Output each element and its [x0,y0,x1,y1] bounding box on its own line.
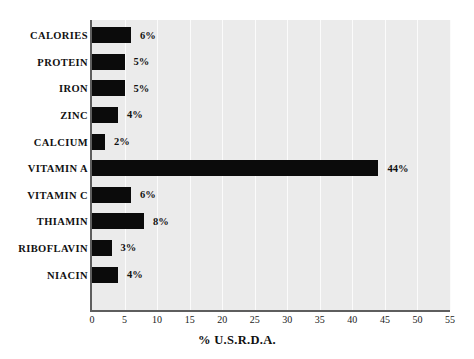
x-tick-label: 25 [250,314,260,325]
bar [92,267,118,283]
bar [92,27,131,43]
bar-row: ZINC4% [0,102,474,128]
x-tick-label: 40 [347,314,357,325]
bar-value-label: 44% [387,163,408,174]
bar-value-label: 4% [127,109,143,120]
x-tick-label: 50 [412,314,422,325]
x-tick-label: 15 [185,314,195,325]
bar-value-label: 8% [153,216,169,227]
x-tick-label: 5 [122,314,127,325]
category-label: RIBOFLAVIN [18,242,88,253]
bar [92,240,112,256]
x-tick-label: 35 [315,314,325,325]
bar-group: 6% [92,27,156,43]
bar [92,134,105,150]
category-label: NIACIN [47,269,88,280]
bar [92,213,144,229]
bar-row: VITAMIN A44% [0,155,474,181]
bar-chart: CALORIES6%PROTEIN5%IRON5%ZINC4%CALCIUM2%… [0,0,474,359]
bar-value-label: 5% [134,83,150,94]
category-label: CALCIUM [34,136,88,147]
bar [92,160,378,176]
x-tick-label: 10 [152,314,162,325]
bar-value-label: 3% [121,242,137,253]
bar-group: 4% [92,267,143,283]
bar-row: CALORIES6% [0,22,474,48]
bar-row: VITAMIN C6% [0,182,474,208]
bar-row: RIBOFLAVIN3% [0,235,474,261]
bar-group: 5% [92,80,149,96]
category-label: THIAMIN [37,216,88,227]
bar-value-label: 6% [140,189,156,200]
bar-group: 6% [92,187,156,203]
bar [92,187,131,203]
bar-group: 5% [92,54,149,70]
bar-row: THIAMIN8% [0,208,474,234]
bar-row: NIACIN4% [0,261,474,287]
bar-group: 2% [92,134,130,150]
category-label: ZINC [60,109,88,120]
x-tick-label: 20 [217,314,227,325]
x-axis-title: % U.S.R.D.A. [0,333,474,348]
bar-group: 44% [92,160,408,176]
bar-group: 3% [92,240,136,256]
x-tick-label: 30 [282,314,292,325]
bar-value-label: 4% [127,269,143,280]
category-label: VITAMIN A [28,163,88,174]
x-tick-label: 55 [445,314,455,325]
bar-value-label: 2% [114,136,130,147]
category-label: CALORIES [30,30,88,41]
bar-row: CALCIUM2% [0,128,474,154]
bar-group: 4% [92,107,143,123]
bar-row: PROTEIN5% [0,49,474,75]
x-tick-label: 0 [90,314,95,325]
bar-row: IRON5% [0,75,474,101]
bar [92,54,125,70]
bar [92,80,125,96]
x-tick-label: 45 [380,314,390,325]
category-label: VITAMIN C [27,189,88,200]
category-label: PROTEIN [37,56,88,67]
x-axis-line [90,310,450,312]
bar-value-label: 6% [140,30,156,41]
bar-value-label: 5% [134,56,150,67]
bar [92,107,118,123]
bar-group: 8% [92,213,169,229]
category-label: IRON [59,83,88,94]
